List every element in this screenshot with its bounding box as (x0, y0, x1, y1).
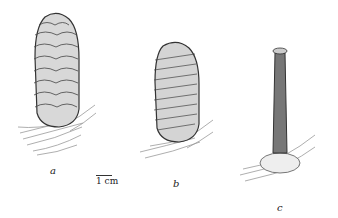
panel-label-b: b (173, 178, 179, 189)
cone-b-illustration (135, 40, 220, 160)
cone-a-illustration (15, 5, 100, 160)
panel-label-c: c (277, 202, 283, 213)
cone-c-axis-illustration (235, 45, 325, 195)
panel-label-a: a (50, 165, 56, 176)
scale-bar-label: 1 cm (96, 176, 118, 186)
